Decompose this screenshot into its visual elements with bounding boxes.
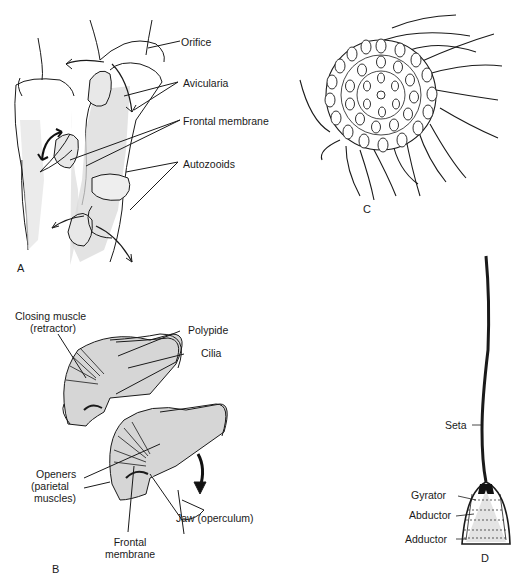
label-avicularia: Avicularia xyxy=(183,77,228,89)
label-abductor: Abductor xyxy=(409,509,451,521)
label-retractor: (retractor) xyxy=(30,322,76,334)
bryozoan-figure: Orifice Avicularia Frontal membrane Auto… xyxy=(0,0,524,578)
label-frontal-b: Frontal xyxy=(104,536,156,548)
label-closing-muscle: Closing muscle xyxy=(15,310,86,322)
panel-d-illustration xyxy=(456,256,510,544)
panel-b-illustration xyxy=(58,331,227,534)
label-orifice: Orifice xyxy=(181,36,211,48)
label-seta: Seta xyxy=(445,419,467,431)
label-frontal-membrane-a: Frontal membrane xyxy=(183,115,269,127)
label-adductor: Adductor xyxy=(405,533,447,545)
label-openers: Openers xyxy=(36,468,76,480)
panel-letter-d: D xyxy=(481,552,489,564)
panel-letter-a: A xyxy=(17,262,24,274)
label-cilia: Cilia xyxy=(201,347,221,359)
label-parietal: (parietal xyxy=(31,480,69,492)
label-muscles: muscles) xyxy=(34,492,76,504)
panel-letter-b: B xyxy=(52,563,59,575)
label-gyrator: Gyrator xyxy=(411,489,446,501)
label-membrane-b: membrane xyxy=(99,548,161,560)
panel-a-illustration xyxy=(15,20,180,265)
label-jaw-operculum: Jaw (operculum) xyxy=(176,512,254,524)
panel-letter-c: C xyxy=(363,203,371,215)
label-polypide: Polypide xyxy=(188,324,228,336)
label-autozooids: Autozooids xyxy=(183,158,235,170)
